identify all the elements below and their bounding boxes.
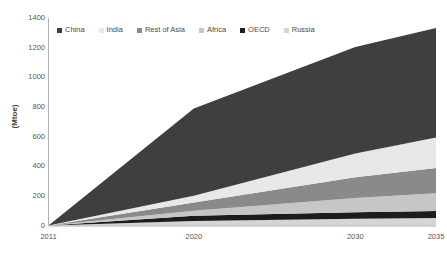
legend-swatch-icon [240,28,245,33]
legend-item-label: Rest of Asia [145,26,185,34]
legend-item-india[interactable]: India [99,24,123,36]
legend-swatch-icon [284,28,289,33]
legend-item-china[interactable]: China [57,24,85,36]
legend-item-russia[interactable]: Russia [284,24,315,36]
chart-legend: ChinaIndiaRest of AsiaAfricaOECDRussia [57,24,329,36]
legend-swatch-icon [99,28,104,33]
legend-swatch-icon [137,28,142,33]
legend-item-label: China [65,26,85,34]
legend-item-label: OECD [248,26,270,34]
legend-item-label: Africa [207,26,226,34]
legend-item-rest-of-asia[interactable]: Rest of Asia [137,24,185,36]
legend-item-label: India [107,26,123,34]
legend-item-label: Russia [292,26,315,34]
stacked-area-chart: (Mtoe) 0200400600800100012001400 2011202… [0,0,447,257]
legend-item-oecd[interactable]: OECD [240,24,270,36]
legend-item-africa[interactable]: Africa [199,24,226,36]
plot-area [0,0,447,257]
legend-swatch-icon [199,28,204,33]
legend-swatch-icon [57,28,62,33]
